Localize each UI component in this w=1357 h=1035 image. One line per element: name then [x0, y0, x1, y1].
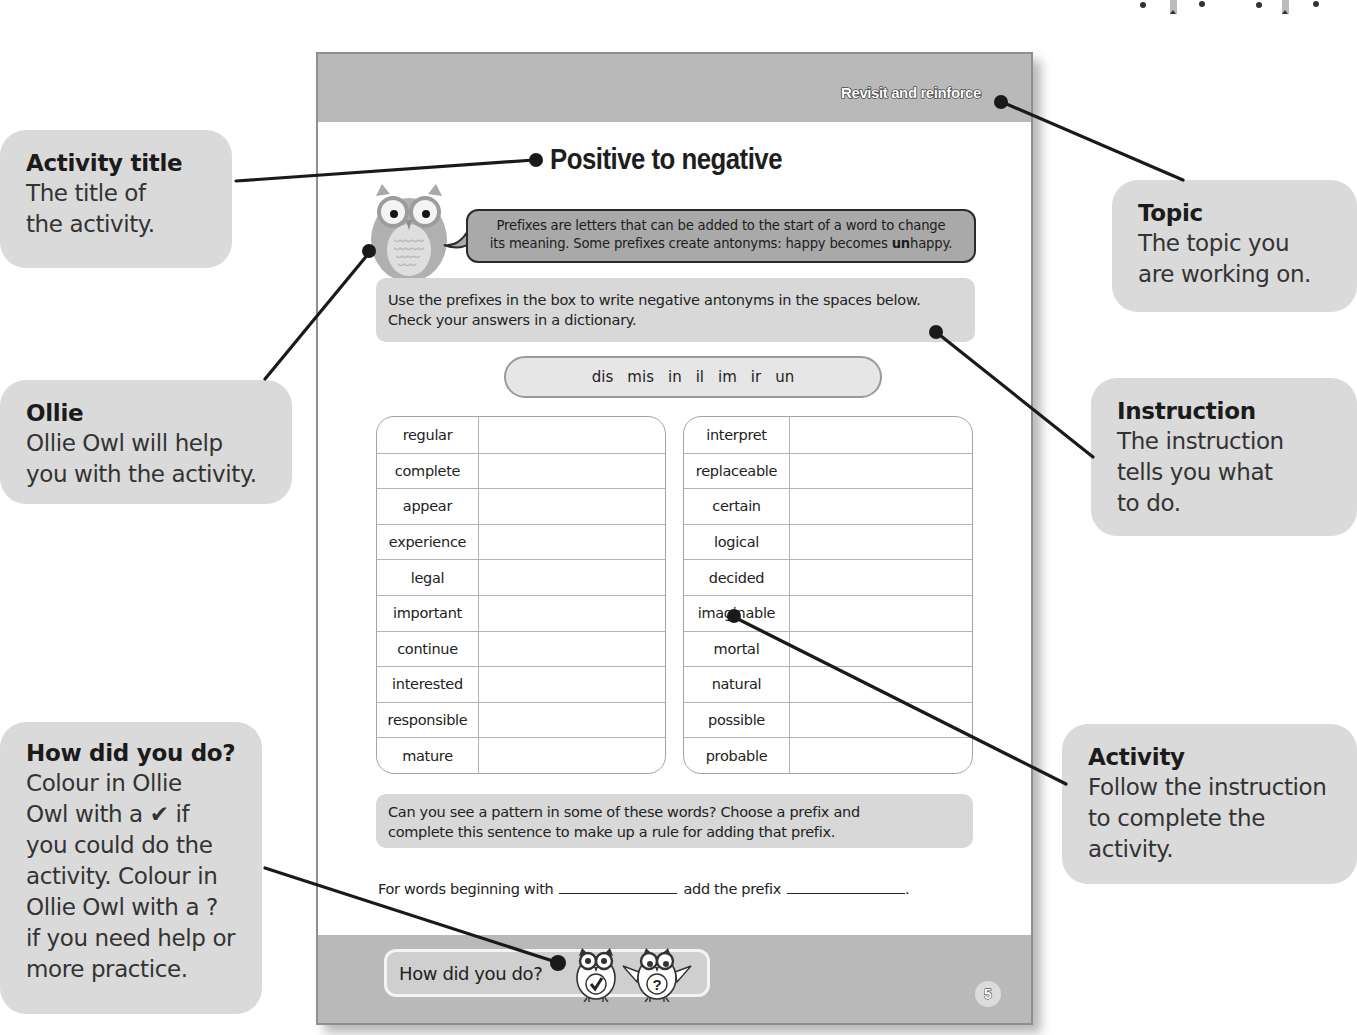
table-row: regular [377, 417, 665, 453]
answer-field[interactable] [790, 454, 972, 489]
callout-title: Instruction [1117, 396, 1331, 426]
table-row: mature [377, 737, 665, 773]
owl-check-icon[interactable] [573, 946, 619, 1002]
table-row: interested [377, 666, 665, 702]
rule-sentence: For words beginning with add the prefix … [378, 880, 909, 897]
callout-activity: Activity Follow the instruction to compl… [1062, 724, 1357, 884]
callout-title: Activity [1088, 742, 1331, 772]
svg-text:?: ? [652, 976, 661, 993]
word-cell: experience [377, 525, 479, 560]
word-cell: certain [684, 489, 790, 524]
word-cell: interpret [684, 417, 790, 453]
table-row: experience [377, 524, 665, 560]
callout-topic: Topic The topic you are working on. [1112, 180, 1357, 312]
callout-body: The topic you are working on. [1138, 228, 1331, 290]
word-cell: natural [684, 667, 790, 702]
table-row: interpret [684, 417, 972, 453]
answer-field[interactable] [479, 632, 665, 667]
word-cell: imaginable [684, 596, 790, 631]
table-row: decided [684, 559, 972, 595]
table-row: responsible [377, 702, 665, 738]
prefix-box: dis mis in il im ir un [504, 356, 882, 398]
table-row: complete [377, 453, 665, 489]
callout-how-did-you-do: How did you do? Colour in Ollie Owl with… [0, 722, 262, 1014]
word-cell: legal [377, 560, 479, 595]
answer-field[interactable] [479, 525, 665, 560]
pattern-question-box: Can you see a pattern in some of these w… [376, 794, 973, 848]
bold-prefix: un [892, 236, 910, 251]
callout-body: The instruction tells you what to do. [1117, 426, 1331, 519]
word-cell: possible [684, 703, 790, 738]
answer-field[interactable] [479, 596, 665, 631]
answer-field[interactable] [790, 632, 972, 667]
table-row: logical [684, 524, 972, 560]
self-assessment-box: How did you do? ? [384, 949, 710, 997]
worksheet-page: Revisit and reinforce Positive to negati… [316, 52, 1033, 1025]
table-row: important [377, 595, 665, 631]
answer-field[interactable] [790, 667, 972, 702]
prefix-item: un [775, 368, 794, 386]
answer-field[interactable] [479, 667, 665, 702]
table-row: imaginable [684, 595, 972, 631]
table-row: natural [684, 666, 972, 702]
answer-field[interactable] [790, 703, 972, 738]
word-table-left: regular complete appear experience legal… [376, 416, 666, 774]
callout-body: Follow the instruction to complete the a… [1088, 772, 1331, 865]
word-table-right: interpret replaceable certain logical de… [683, 416, 973, 774]
answer-field[interactable] [479, 560, 665, 595]
instruction-box: Use the prefixes in the box to write neg… [376, 278, 975, 342]
word-cell: mature [377, 738, 479, 773]
word-cell: logical [684, 525, 790, 560]
callout-body: Colour in Ollie Owl with a ✔ if you coul… [26, 768, 236, 985]
prefix-item: il [696, 368, 704, 386]
word-cell: regular [377, 417, 479, 453]
word-cell: probable [684, 738, 790, 773]
callout-ollie: Ollie Ollie Owl will help you with the a… [0, 380, 292, 504]
ollie-owl-icon [368, 182, 450, 286]
answer-field[interactable] [479, 703, 665, 738]
table-row: continue [377, 631, 665, 667]
table-row: appear [377, 488, 665, 524]
blank-letters-field[interactable] [559, 880, 677, 894]
word-cell: continue [377, 632, 479, 667]
table-row: certain [684, 488, 972, 524]
callout-body: The title of the activity. [26, 178, 206, 240]
callout-title: Topic [1138, 198, 1331, 228]
self-assessment-label: How did you do? [399, 963, 542, 984]
callout-title: Ollie [26, 398, 266, 428]
word-cell: responsible [377, 703, 479, 738]
decorative-graphic-icon [1120, 0, 1320, 24]
prefix-item: in [668, 368, 682, 386]
answer-field[interactable] [479, 417, 665, 453]
word-cell: appear [377, 489, 479, 524]
prefix-item: dis [592, 368, 614, 386]
prefix-item: im [718, 368, 737, 386]
prefix-item: ir [751, 368, 761, 386]
page-footer-band: How did you do? ? [318, 935, 1031, 1023]
callout-title: How did you do? [26, 738, 236, 768]
answer-field[interactable] [479, 738, 665, 773]
callout-activity-title: Activity title The title of the activity… [0, 130, 232, 268]
answer-field[interactable] [479, 454, 665, 489]
answer-field[interactable] [790, 596, 972, 631]
answer-field[interactable] [790, 525, 972, 560]
table-row: legal [377, 559, 665, 595]
answer-field[interactable] [790, 489, 972, 524]
answer-field[interactable] [790, 417, 972, 453]
word-cell: decided [684, 560, 790, 595]
owl-question-icon[interactable]: ? [621, 946, 693, 1002]
page-number: 5 [975, 981, 1001, 1007]
word-cell: interested [377, 667, 479, 702]
page-header-band: Revisit and reinforce [318, 54, 1031, 122]
callout-instruction: Instruction The instruction tells you wh… [1091, 378, 1357, 536]
ollie-speech-bubble: Prefixes are letters that can be added t… [466, 209, 976, 263]
table-row: mortal [684, 631, 972, 667]
answer-field[interactable] [790, 560, 972, 595]
blank-prefix-field[interactable] [787, 880, 905, 894]
topic-label: Revisit and reinforce [841, 84, 981, 101]
activity-title: Positive to negative [550, 142, 782, 176]
answer-field[interactable] [790, 738, 972, 773]
word-cell: replaceable [684, 454, 790, 489]
callout-title: Activity title [26, 148, 206, 178]
answer-field[interactable] [479, 489, 665, 524]
